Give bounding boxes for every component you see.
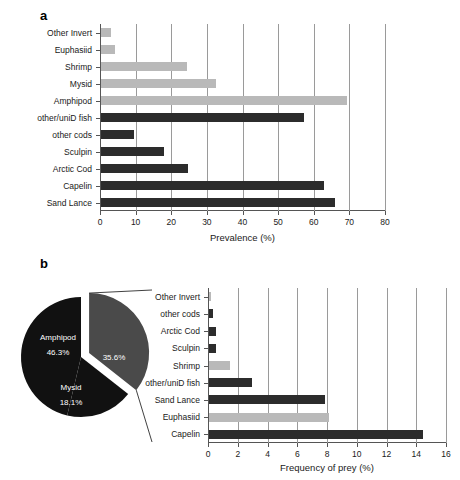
- y-tick-mark: [204, 314, 208, 315]
- category-label: Arctic Cod: [100, 327, 200, 336]
- category-label: Amphipod: [0, 97, 92, 106]
- x-tick-mark: [385, 211, 386, 215]
- x-tick-mark: [136, 211, 137, 215]
- y-tick-mark: [96, 169, 100, 170]
- y-tick-mark: [204, 417, 208, 418]
- x-tick-mark: [357, 443, 358, 447]
- x-tick-label: 16: [431, 449, 460, 459]
- category-label: other cods: [100, 310, 200, 319]
- category-label: Sculpin: [100, 344, 200, 353]
- y-tick-mark: [96, 50, 100, 51]
- panel-b: b Amphipod46.3%Mysid18.1%35.6% Frequency…: [0, 250, 460, 480]
- x-tick-mark: [314, 211, 315, 215]
- x-tick-mark: [268, 443, 269, 447]
- panel-a-plot-area: [100, 24, 385, 211]
- bar: [101, 45, 115, 54]
- gridline: [387, 288, 388, 443]
- panel-b-x-axis-title: Frequency of prey (%): [208, 462, 446, 473]
- bar: [101, 130, 134, 139]
- gridline: [385, 24, 386, 211]
- category-label: other/uniD fish: [0, 114, 92, 123]
- x-tick-label: 40: [228, 217, 258, 227]
- gridline: [416, 288, 417, 443]
- y-tick-mark: [96, 203, 100, 204]
- figure-root: a Prevalence (%) 01020304050607080Other …: [0, 0, 460, 480]
- category-label: Mysid: [0, 80, 92, 89]
- bar: [209, 309, 213, 318]
- x-tick-label: 10: [121, 217, 151, 227]
- bar: [101, 28, 111, 37]
- x-tick-mark: [446, 443, 447, 447]
- x-tick-label: 50: [263, 217, 293, 227]
- x-tick-label: 0: [193, 449, 223, 459]
- bar: [209, 361, 230, 370]
- bar: [209, 395, 325, 404]
- category-label: Sand Lance: [0, 199, 92, 208]
- x-tick-mark: [207, 211, 208, 215]
- category-label: Shrimp: [0, 63, 92, 72]
- x-tick-mark: [387, 443, 388, 447]
- y-tick-mark: [204, 366, 208, 367]
- y-tick-mark: [96, 186, 100, 187]
- category-label: Euphasiid: [100, 413, 200, 422]
- x-tick-label: 14: [401, 449, 431, 459]
- y-tick-mark: [96, 152, 100, 153]
- y-tick-mark: [96, 33, 100, 34]
- x-tick-mark: [171, 211, 172, 215]
- category-label: Capelin: [0, 182, 92, 191]
- x-tick-mark: [327, 443, 328, 447]
- y-tick-mark: [96, 118, 100, 119]
- x-tick-label: 2: [223, 449, 253, 459]
- category-label: other cods: [0, 131, 92, 140]
- x-tick-label: 60: [299, 217, 329, 227]
- bar: [101, 62, 187, 71]
- bar: [101, 198, 335, 207]
- panel-a: a Prevalence (%) 01020304050607080Other …: [0, 0, 460, 250]
- y-tick-mark: [96, 67, 100, 68]
- x-tick-label: 10: [342, 449, 372, 459]
- bar: [101, 79, 216, 88]
- category-label: Shrimp: [100, 362, 200, 371]
- x-tick-mark: [100, 211, 101, 215]
- category-label: other/uniD fish: [100, 379, 200, 388]
- x-tick-mark: [349, 211, 350, 215]
- x-tick-mark: [208, 443, 209, 447]
- x-tick-label: 20: [156, 217, 186, 227]
- y-tick-mark: [204, 348, 208, 349]
- category-label: Euphasiid: [0, 46, 92, 55]
- category-label: Sculpin: [0, 148, 92, 157]
- x-tick-mark: [243, 211, 244, 215]
- x-tick-mark: [297, 443, 298, 447]
- bar: [209, 327, 216, 336]
- y-tick-mark: [96, 84, 100, 85]
- category-label: Other Invert: [0, 29, 92, 38]
- x-tick-label: 8: [312, 449, 342, 459]
- gridline: [446, 288, 447, 443]
- x-tick-label: 0: [85, 217, 115, 227]
- category-label: Other Invert: [100, 293, 200, 302]
- x-tick-label: 70: [334, 217, 364, 227]
- x-tick-label: 80: [370, 217, 400, 227]
- y-tick-mark: [204, 383, 208, 384]
- y-tick-mark: [96, 101, 100, 102]
- x-tick-label: 6: [282, 449, 312, 459]
- bar: [209, 292, 211, 301]
- category-label: Sand Lance: [100, 396, 200, 405]
- bar: [209, 430, 423, 439]
- y-tick-mark: [204, 331, 208, 332]
- x-tick-label: 30: [192, 217, 222, 227]
- panel-b-plot-area: [208, 288, 446, 443]
- bar: [101, 113, 304, 122]
- gridline: [357, 288, 358, 443]
- panel-a-x-axis-title: Prevalence (%): [100, 232, 385, 243]
- bar: [101, 147, 164, 156]
- gridline: [349, 24, 350, 211]
- y-tick-mark: [204, 434, 208, 435]
- x-tick-label: 12: [372, 449, 402, 459]
- category-label: Capelin: [100, 430, 200, 439]
- y-tick-mark: [204, 297, 208, 298]
- bar: [101, 164, 188, 173]
- x-tick-mark: [416, 443, 417, 447]
- bar: [209, 413, 329, 422]
- bar: [101, 181, 324, 190]
